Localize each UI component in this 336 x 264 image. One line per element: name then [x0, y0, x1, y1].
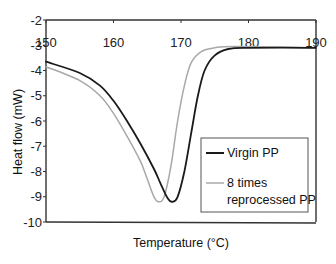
x-tick-label: 170 [170, 35, 192, 50]
y-tick-label: -7 [30, 139, 42, 154]
legend-label-virgin-pp: Virgin PP [227, 146, 279, 160]
bottom-border-line [46, 222, 316, 223]
y-axis-title: Heat flow (mW) [11, 89, 25, 175]
y-tick-label: -2 [30, 13, 42, 28]
dsc-chart: -2-3-4-5-6-7-8-9-10 150160170180190 Virg… [0, 0, 336, 264]
y-tick-label: -6 [30, 114, 42, 129]
y-tick-label: -4 [30, 63, 42, 78]
x-axis-ticks: 150160170180190 [35, 20, 327, 50]
y-tick-label: -8 [30, 164, 42, 179]
x-tick-label: 160 [103, 35, 125, 50]
y-tick-label: -9 [30, 189, 42, 204]
legend-label-reprocessed-pp-line1: 8 times [227, 176, 267, 190]
legend-label-reprocessed-pp-line2: reprocessed PP [227, 193, 316, 207]
y-tick-label: -10 [23, 215, 42, 230]
y-tick-label: -5 [30, 88, 42, 103]
x-tick-label: 150 [35, 35, 57, 50]
x-axis-title: Temperature (°C) [133, 236, 229, 250]
legend: Virgin PP 8 times reprocessed PP [201, 138, 316, 212]
